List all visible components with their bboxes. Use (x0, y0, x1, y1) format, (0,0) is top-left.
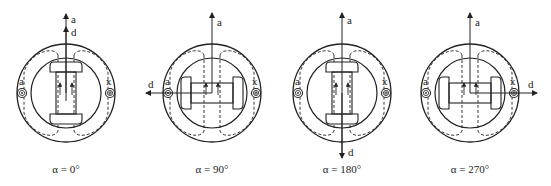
svg-text:a: a (71, 13, 76, 25)
coil-side-x (252, 89, 261, 98)
angle-label-90: α = 90° (196, 163, 229, 175)
diagram-canvas: axadaxadaxadaxad (0, 0, 551, 186)
svg-text:d: d (71, 26, 77, 38)
svg-text:d: d (148, 78, 154, 90)
figure-fig-270: axad (421, 13, 537, 142)
coil-label-x: x (106, 75, 112, 87)
svg-text:a: a (347, 14, 352, 26)
angle-label-180: α = 180° (323, 163, 361, 175)
figure-fig-180: axad (293, 13, 391, 158)
coil-side-x (106, 89, 115, 98)
coil-side-a (294, 89, 303, 98)
svg-text:d: d (348, 146, 354, 158)
svg-text:a: a (475, 16, 480, 28)
coil-label-a: a (423, 75, 428, 87)
svg-text:a: a (217, 16, 222, 28)
coil-side-a (18, 89, 27, 98)
coil-label-x: x (510, 75, 516, 87)
coil-side-a (422, 89, 431, 98)
figure-fig-0: axad (17, 13, 115, 142)
svg-text:d: d (528, 78, 534, 90)
angle-label-0: α = 0° (52, 163, 79, 175)
figure-fig-90: axad (146, 13, 261, 142)
coil-side-x (382, 89, 391, 98)
coil-label-x: x (252, 75, 258, 87)
angle-label-270: α = 270° (451, 163, 489, 175)
coil-label-a: a (165, 75, 170, 87)
coil-label-a: a (295, 75, 300, 87)
coil-label-x: x (382, 75, 388, 87)
coil-label-a: a (19, 75, 24, 87)
